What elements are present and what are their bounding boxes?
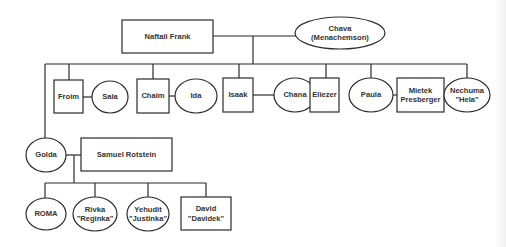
- label-chaim: Chaim: [137, 79, 169, 113]
- label-eliezer: Eliezer: [310, 78, 339, 112]
- label-golda: Golda: [26, 138, 66, 172]
- label-mietek: Mietek Presberger: [397, 78, 444, 112]
- family-tree-diagram: Naftali Frank Chava (Menachemson) Froim …: [0, 0, 506, 247]
- label-nechuma: Nechuma "Hela": [444, 78, 490, 112]
- label-paula: Paula: [349, 78, 393, 112]
- label-rivka: Rivka "Reginka": [73, 197, 117, 231]
- page-edge-shadow: [494, 0, 506, 247]
- label-isaak: Isaak: [223, 78, 253, 112]
- label-sala: Sala: [92, 81, 128, 113]
- label-david: David "Davidek": [181, 197, 231, 230]
- label-samuel: Samuel Rotstein: [81, 138, 172, 171]
- label-chava: Chava (Menachemson): [295, 17, 385, 49]
- label-roma: ROMA: [26, 198, 66, 230]
- label-yehudit: Yehudit "Justinka": [127, 197, 169, 231]
- label-naftali-frank: Naftali Frank: [122, 20, 213, 53]
- label-ida: Ida: [175, 79, 217, 113]
- label-froim: Froim: [54, 80, 83, 113]
